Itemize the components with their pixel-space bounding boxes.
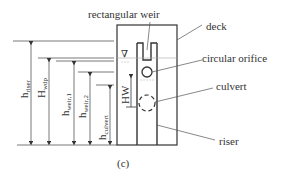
h-culvert-label: hculvert: [96, 115, 110, 140]
riser-outer-box: [117, 25, 177, 145]
rectangular-weir-label: rectangular weir: [88, 8, 160, 20]
riser-leader: [157, 125, 215, 140]
circular-orifice-label: circular orifice: [202, 52, 267, 64]
h-riser-label: hriser: [18, 79, 32, 98]
weir-leader: [147, 22, 150, 50]
culvert-label: culvert: [216, 80, 247, 92]
hw-label: HW: [119, 85, 131, 104]
circular-orifice-shape: [142, 67, 152, 77]
deck-leader: [177, 25, 202, 40]
figure-caption: (c): [117, 157, 130, 170]
riser-diagram: hriser Hwdp hweir,1 hweir,2 hculvert ∇ H…: [0, 0, 281, 180]
h-weir2-label: hweir,2: [76, 95, 90, 118]
h-weir1-label: hweir,1: [59, 93, 73, 116]
deck-label: deck: [206, 20, 227, 32]
water-level-symbol: ∇: [121, 48, 128, 59]
riser-label: riser: [219, 135, 239, 147]
rectangular-weir-shape: [137, 43, 157, 60]
h-wdp-label: Hwdp: [35, 77, 49, 98]
culvert-leader: [155, 88, 213, 102]
culvert-shape: [139, 95, 155, 111]
